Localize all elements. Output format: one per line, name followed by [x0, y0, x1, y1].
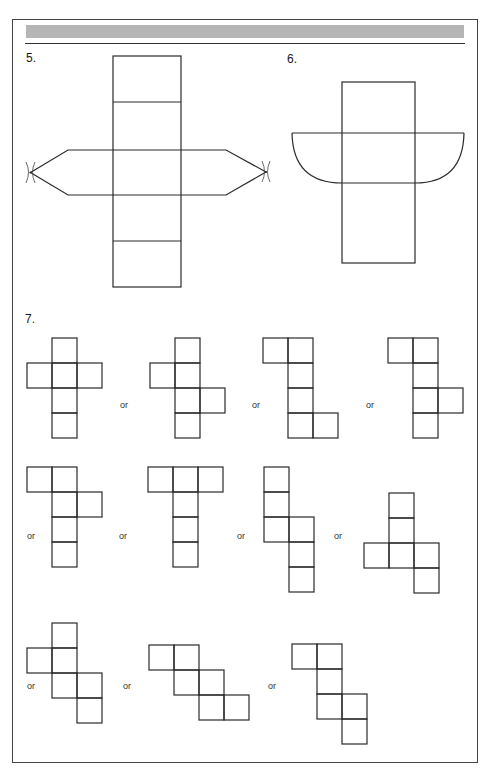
cube-net-c — [263, 338, 338, 438]
cube-net-square — [313, 413, 338, 438]
figure-5-construction-mark — [268, 161, 271, 182]
cube-net-square — [27, 467, 52, 492]
cube-net-square — [174, 670, 199, 695]
cube-net-square — [52, 338, 77, 363]
figure-5-tip-point — [265, 171, 267, 173]
cube-net-square — [317, 669, 342, 694]
cube-net-square — [77, 492, 102, 517]
cube-net-square — [289, 542, 314, 567]
figure-7-cube-nets — [27, 338, 463, 744]
cube-net-square — [317, 644, 342, 669]
cube-net-square — [174, 645, 199, 670]
cube-net-a — [27, 338, 102, 438]
cube-net-square — [77, 673, 102, 698]
cube-net-square — [150, 363, 175, 388]
figure-6-net — [292, 82, 464, 263]
cube-net-square — [27, 363, 52, 388]
cube-net-square — [199, 670, 224, 695]
cube-net-square — [173, 467, 198, 492]
cube-net-square — [200, 388, 225, 413]
cube-net-square — [413, 363, 438, 388]
cube-net-square — [413, 338, 438, 363]
cube-net-square — [414, 543, 439, 568]
figure-5-side-band — [31, 150, 267, 195]
cube-net-square — [413, 388, 438, 413]
cube-net-j — [149, 645, 249, 720]
cube-net-square — [148, 467, 173, 492]
figures-canvas — [0, 0, 488, 768]
cube-net-square — [175, 363, 200, 388]
cube-net-square — [289, 517, 314, 542]
cube-net-f — [148, 467, 223, 567]
cube-net-d — [388, 338, 463, 438]
cube-net-square — [175, 388, 200, 413]
cube-net-square — [264, 467, 289, 492]
cube-net-square — [342, 719, 367, 744]
cube-net-square — [52, 413, 77, 438]
cube-net-square — [149, 645, 174, 670]
cube-net-square — [175, 413, 200, 438]
cube-net-square — [264, 492, 289, 517]
cube-net-square — [77, 698, 102, 723]
cube-net-square — [27, 648, 52, 673]
cube-net-square — [52, 492, 77, 517]
cube-net-square — [389, 543, 414, 568]
cube-net-square — [173, 492, 198, 517]
figure-5-net — [26, 56, 270, 287]
cube-net-square — [389, 493, 414, 518]
cube-net-b — [150, 338, 225, 438]
cube-net-square — [173, 517, 198, 542]
cube-net-square — [292, 644, 317, 669]
cube-net-square — [52, 517, 77, 542]
cube-net-square — [224, 695, 249, 720]
cube-net-square — [173, 542, 198, 567]
cube-net-square — [264, 517, 289, 542]
cube-net-square — [288, 363, 313, 388]
cube-net-square — [52, 623, 77, 648]
cube-net-square — [77, 363, 102, 388]
figure-5-construction-mark — [26, 162, 29, 183]
cube-net-square — [52, 467, 77, 492]
cube-net-square — [288, 413, 313, 438]
cube-net-square — [199, 695, 224, 720]
cube-net-square — [52, 648, 77, 673]
cube-net-k — [292, 644, 367, 744]
figure-5-column — [113, 56, 181, 287]
cube-net-square — [317, 694, 342, 719]
cube-net-square — [198, 467, 223, 492]
figure-5-construction-mark — [262, 161, 265, 182]
figure-6-semicircle-left — [292, 133, 342, 183]
cube-net-square — [288, 388, 313, 413]
figure-5-construction-mark — [33, 162, 36, 183]
figure-6-semicircle-right — [415, 133, 464, 183]
cube-net-e — [27, 467, 102, 567]
cube-net-square — [389, 518, 414, 543]
cube-net-square — [364, 543, 389, 568]
cube-net-square — [288, 338, 313, 363]
cube-net-square — [388, 338, 413, 363]
cube-net-h — [364, 493, 439, 593]
cube-net-i — [27, 623, 102, 723]
cube-net-square — [438, 388, 463, 413]
cube-net-square — [175, 338, 200, 363]
cube-net-square — [413, 413, 438, 438]
cube-net-square — [414, 568, 439, 593]
cube-net-square — [289, 567, 314, 592]
figure-5-tip-point — [30, 172, 32, 174]
cube-net-square — [342, 694, 367, 719]
figure-6-column — [342, 82, 415, 263]
cube-net-square — [52, 388, 77, 413]
cube-net-g — [264, 467, 314, 592]
cube-net-square — [263, 338, 288, 363]
cube-net-square — [52, 363, 77, 388]
cube-net-square — [52, 542, 77, 567]
cube-net-square — [52, 673, 77, 698]
